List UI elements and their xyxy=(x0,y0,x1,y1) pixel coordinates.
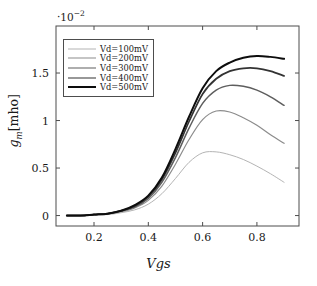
y-tick-label: 0 xyxy=(42,210,49,223)
legend-item[interactable]: Vd=100mV xyxy=(68,44,148,54)
x-tick-label: 0.6 xyxy=(194,231,212,244)
legend-line xyxy=(68,67,96,68)
legend-item[interactable]: Vd=300mV xyxy=(68,63,148,73)
legend-line-swatch xyxy=(68,54,96,63)
chart-figure: ·10−2 0.20.40.60.800.511.5 gm[mho] Vgs V… xyxy=(0,0,317,286)
y-axis-label-gm: g xyxy=(6,139,21,147)
legend-line-swatch xyxy=(68,73,96,82)
y-axis-label-subscript: m xyxy=(14,131,24,139)
x-tick-label: 0.2 xyxy=(85,231,103,244)
y-tick-label: 1 xyxy=(42,115,49,128)
x-axis-label: Vgs xyxy=(0,256,317,271)
legend-item-label: Vd=500mV xyxy=(96,82,148,92)
legend-line xyxy=(68,58,96,59)
y-axis-label: gm[mho] xyxy=(6,83,24,159)
legend-line xyxy=(68,77,96,78)
legend-line xyxy=(68,48,96,49)
legend-item-label: Vd=100mV xyxy=(96,44,148,54)
x-tick-label: 0.4 xyxy=(140,231,158,244)
y-tick-label: 1.5 xyxy=(32,67,50,80)
y-tick-label: 0.5 xyxy=(32,162,50,175)
legend-item-label: Vd=400mV xyxy=(96,73,148,83)
legend-item[interactable]: Vd=400mV xyxy=(68,73,148,83)
curve-Vd=100mV xyxy=(67,152,284,216)
legend-line-swatch xyxy=(68,83,96,92)
legend-item[interactable]: Vd=500mV xyxy=(68,82,148,92)
legend-item-label: Vd=300mV xyxy=(96,63,148,73)
legend-item-label: Vd=200mV xyxy=(96,53,148,63)
x-tick-label: 0.8 xyxy=(248,231,266,244)
plot-canvas: 0.20.40.60.800.511.5 xyxy=(0,0,317,286)
legend-item[interactable]: Vd=200mV xyxy=(68,54,148,64)
chart-legend: Vd=100mVVd=200mVVd=300mVVd=400mVVd=500mV xyxy=(63,39,154,97)
legend-line-swatch xyxy=(68,63,96,72)
y-axis-label-unit: [mho] xyxy=(6,94,21,131)
legend-line-swatch xyxy=(68,44,96,53)
legend-line xyxy=(68,86,96,88)
